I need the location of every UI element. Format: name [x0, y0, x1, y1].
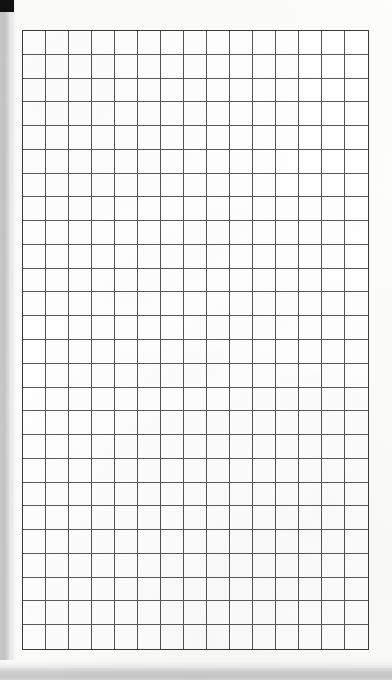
- grid-cell[interactable]: [46, 483, 69, 507]
- grid-cell[interactable]: [345, 174, 368, 198]
- grid-cell[interactable]: [345, 435, 368, 459]
- grid-cell[interactable]: [69, 150, 92, 174]
- grid-cell[interactable]: [299, 79, 322, 103]
- grid-cell[interactable]: [253, 316, 276, 340]
- grid-cell[interactable]: [161, 530, 184, 554]
- grid-cell[interactable]: [115, 364, 138, 388]
- grid-cell[interactable]: [299, 411, 322, 435]
- grid-cell[interactable]: [230, 55, 253, 79]
- grid-cell[interactable]: [115, 578, 138, 602]
- grid-cell[interactable]: [184, 578, 207, 602]
- grid-cell[interactable]: [69, 102, 92, 126]
- grid-cell[interactable]: [92, 388, 115, 412]
- grid-cell[interactable]: [138, 340, 161, 364]
- grid-cell[interactable]: [184, 221, 207, 245]
- grid-cell[interactable]: [138, 388, 161, 412]
- grid-cell[interactable]: [23, 292, 46, 316]
- grid-cell[interactable]: [69, 459, 92, 483]
- grid-cell[interactable]: [161, 221, 184, 245]
- grid-cell[interactable]: [69, 530, 92, 554]
- grid-cell[interactable]: [184, 245, 207, 269]
- grid-cell[interactable]: [115, 55, 138, 79]
- grid-cell[interactable]: [207, 31, 230, 55]
- grid-cell[interactable]: [92, 411, 115, 435]
- grid-cell[interactable]: [138, 625, 161, 649]
- grid-cell[interactable]: [184, 197, 207, 221]
- grid-cell[interactable]: [92, 102, 115, 126]
- grid-cell[interactable]: [345, 483, 368, 507]
- grid-cell[interactable]: [23, 79, 46, 103]
- grid-cell[interactable]: [276, 55, 299, 79]
- grid-cell[interactable]: [161, 459, 184, 483]
- grid-cell[interactable]: [299, 31, 322, 55]
- grid-cell[interactable]: [345, 530, 368, 554]
- grid-cell[interactable]: [345, 197, 368, 221]
- grid-cell[interactable]: [69, 316, 92, 340]
- grid-cell[interactable]: [161, 554, 184, 578]
- grid-cell[interactable]: [69, 292, 92, 316]
- grid-cell[interactable]: [161, 316, 184, 340]
- grid-cell[interactable]: [161, 388, 184, 412]
- grid-cell[interactable]: [322, 174, 345, 198]
- grid-cell[interactable]: [207, 364, 230, 388]
- grid-cell[interactable]: [115, 245, 138, 269]
- grid-cell[interactable]: [92, 55, 115, 79]
- grid-cell[interactable]: [69, 174, 92, 198]
- grid-cell[interactable]: [276, 530, 299, 554]
- grid-cell[interactable]: [23, 578, 46, 602]
- grid-cell[interactable]: [46, 102, 69, 126]
- grid-cell[interactable]: [345, 55, 368, 79]
- grid-cell[interactable]: [322, 530, 345, 554]
- grid-cell[interactable]: [253, 530, 276, 554]
- grid-cell[interactable]: [23, 340, 46, 364]
- grid-cell[interactable]: [322, 79, 345, 103]
- grid-cell[interactable]: [23, 388, 46, 412]
- grid-cell[interactable]: [299, 340, 322, 364]
- grid-cell[interactable]: [299, 245, 322, 269]
- grid-cell[interactable]: [207, 554, 230, 578]
- grid-cell[interactable]: [276, 411, 299, 435]
- grid-cell[interactable]: [207, 601, 230, 625]
- grid-cell[interactable]: [253, 578, 276, 602]
- grid-cell[interactable]: [184, 506, 207, 530]
- grid-cell[interactable]: [115, 340, 138, 364]
- grid-cell[interactable]: [69, 411, 92, 435]
- grid-cell[interactable]: [276, 601, 299, 625]
- grid-cell[interactable]: [138, 530, 161, 554]
- grid-cell[interactable]: [184, 174, 207, 198]
- grid-cell[interactable]: [207, 411, 230, 435]
- grid-cell[interactable]: [46, 411, 69, 435]
- grid-cell[interactable]: [138, 578, 161, 602]
- grid-cell[interactable]: [276, 625, 299, 649]
- grid-cell[interactable]: [161, 506, 184, 530]
- grid-cell[interactable]: [138, 506, 161, 530]
- grid-cell[interactable]: [92, 435, 115, 459]
- grid-cell[interactable]: [345, 292, 368, 316]
- grid-cell[interactable]: [299, 221, 322, 245]
- grid-cell[interactable]: [184, 435, 207, 459]
- grid-cell[interactable]: [230, 459, 253, 483]
- grid-cell[interactable]: [23, 364, 46, 388]
- grid-cell[interactable]: [92, 245, 115, 269]
- grid-cell[interactable]: [23, 411, 46, 435]
- grid-cell[interactable]: [345, 316, 368, 340]
- grid-cell[interactable]: [207, 102, 230, 126]
- grid-cell[interactable]: [115, 102, 138, 126]
- grid-cell[interactable]: [69, 126, 92, 150]
- grid-cell[interactable]: [46, 506, 69, 530]
- grid-cell[interactable]: [23, 221, 46, 245]
- grid-cell[interactable]: [345, 506, 368, 530]
- grid-cell[interactable]: [276, 483, 299, 507]
- grid-cell[interactable]: [207, 55, 230, 79]
- grid-cell[interactable]: [322, 102, 345, 126]
- grid-cell[interactable]: [253, 435, 276, 459]
- grid-cell[interactable]: [46, 435, 69, 459]
- grid-cell[interactable]: [69, 340, 92, 364]
- grid-cell[interactable]: [299, 150, 322, 174]
- grid-cell[interactable]: [115, 506, 138, 530]
- grid-cell[interactable]: [184, 483, 207, 507]
- grid-cell[interactable]: [276, 340, 299, 364]
- grid-cell[interactable]: [161, 79, 184, 103]
- grid-cell[interactable]: [276, 197, 299, 221]
- grid-cell[interactable]: [184, 601, 207, 625]
